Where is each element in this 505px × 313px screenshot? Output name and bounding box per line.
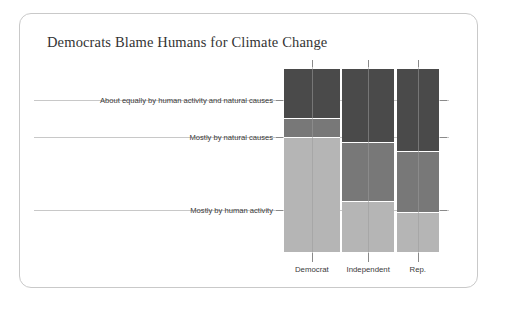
page-title: Democrats Blame Humans for Climate Chang… xyxy=(47,34,327,51)
axis-tick-left xyxy=(276,100,283,101)
gridline-vertical xyxy=(312,60,313,261)
axis-tick-right xyxy=(440,100,447,101)
axis-tick-right xyxy=(440,210,447,211)
screenshot-canvas: Democrats Blame Humans for Climate Chang… xyxy=(0,0,505,313)
axis-tick-bottom xyxy=(368,253,369,262)
x-axis-label: Independent xyxy=(346,265,389,274)
axis-tick-bottom xyxy=(418,253,419,262)
axis-tick-left xyxy=(276,137,283,138)
axis-tick-bottom xyxy=(312,253,313,262)
x-axis-label: Rep. xyxy=(410,265,426,274)
x-axis-label: Democrat xyxy=(295,265,329,274)
mosaic-plot: About equally by human activity and natu… xyxy=(284,69,439,252)
y-axis-label: About equally by human activity and natu… xyxy=(100,96,273,105)
axis-tick-right xyxy=(440,137,447,138)
axis-tick-top xyxy=(418,60,419,67)
y-axis-label: Mostly by human activity xyxy=(190,205,273,214)
axis-tick-top xyxy=(368,60,369,67)
axis-tick-left xyxy=(276,210,283,211)
chart-card: Democrats Blame Humans for Climate Chang… xyxy=(19,13,478,288)
gridline-vertical xyxy=(418,60,419,261)
y-axis-label: Mostly by natural causes xyxy=(189,132,273,141)
gridline-vertical xyxy=(368,60,369,261)
axis-tick-top xyxy=(312,60,313,67)
